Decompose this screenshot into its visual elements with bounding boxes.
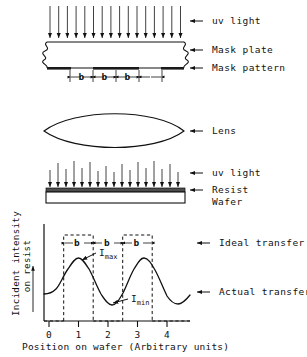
x-tick-label-1: 1 xyxy=(76,329,82,340)
wafer-layer xyxy=(46,192,185,203)
mask-uv-rays xyxy=(50,6,181,38)
wafer-callout-arrows xyxy=(190,173,203,190)
x-tick-label-2: 2 xyxy=(105,329,111,340)
y-axis-title: Incident intensityon resist xyxy=(10,216,32,316)
wafer-uv-rays xyxy=(50,161,178,187)
mask-b-label-3: b xyxy=(125,71,131,82)
x-tick-label-0: 0 xyxy=(46,329,52,340)
mask-pattern-segments xyxy=(47,67,184,70)
label-mask-uv-light: uv light xyxy=(212,15,261,26)
label-mask-pattern: Mask pattern xyxy=(212,62,285,73)
mask-plate-body xyxy=(43,42,189,68)
annotation-i-min: Imin xyxy=(131,293,149,307)
label-resist: Resist xyxy=(212,184,249,195)
legend-ideal-transfer: Ideal transfer xyxy=(219,237,305,248)
x-tick-label-4: 4 xyxy=(164,329,170,340)
chart-callout-arrows xyxy=(197,243,210,292)
chart-x-ticks xyxy=(49,321,167,327)
label-wafer-uv-light: uv light xyxy=(212,167,261,178)
i-min-subscript: min xyxy=(137,299,150,307)
chart-series-actual-transfer xyxy=(44,258,190,305)
mask-callout-arrows xyxy=(190,21,203,68)
chart-b-label-3: b xyxy=(134,237,140,248)
label-mask-plate: Mask plate xyxy=(212,44,273,55)
figure-root: uv light Mask plate Mask pattern b b b L… xyxy=(0,0,307,357)
lens-shape xyxy=(44,114,184,148)
legend-actual-transfer: Actual transfer xyxy=(219,286,307,297)
label-lens: Lens xyxy=(212,125,236,136)
i-max-subscript: max xyxy=(105,253,118,261)
mask-b-label-1: b xyxy=(79,71,85,82)
x-axis-title: Position on wafer (Arbitrary units) xyxy=(22,341,229,352)
annotation-i-max: Imax xyxy=(99,247,117,261)
mask-b-label-2: b xyxy=(102,71,108,82)
label-wafer: Wafer xyxy=(212,196,243,207)
resist-layer xyxy=(46,188,185,192)
chart-b-label-1: b xyxy=(74,237,80,248)
x-tick-label-3: 3 xyxy=(135,329,141,340)
